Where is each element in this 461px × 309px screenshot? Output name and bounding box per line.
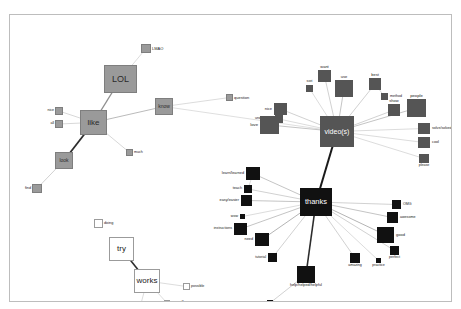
top-strip [0,0,461,14]
graph-node-label: people [410,94,423,98]
graph-node-label: please [419,164,430,168]
graph-node-label: sori [307,80,313,84]
graph-node-cool[interactable]: cool [418,137,430,148]
graph-node-works[interactable]: works [134,269,160,293]
graph-node-sori[interactable]: sori [306,85,313,92]
graph-node-use[interactable]: use [335,80,353,97]
graph-node-label: easy/easier [220,199,239,203]
graph-node-label: know [158,104,170,109]
graph-edge [164,98,230,107]
graph-node-nice_left[interactable]: nice [55,107,63,115]
graph-node-nice_right[interactable]: nice [274,103,287,115]
graph-node-much[interactable]: much [126,149,133,156]
graph-node-label: LMAO [152,47,163,51]
graph-node-label: practice [372,264,385,268]
graph-node-label: doing [104,222,113,226]
graph-node-label: perfect [389,256,400,260]
graph-node-lmao[interactable]: LMAO [141,44,151,53]
graph-node-label: possible [191,285,204,289]
graph-node-question[interactable]: question [226,94,233,101]
graph-node-label: OMG [403,203,412,207]
edge-layer [10,15,451,301]
graph-node-look[interactable]: look [55,152,73,169]
graph-node-omg[interactable]: OMG [392,200,401,209]
graph-node-all[interactable]: all [55,120,63,128]
graph-node-label: like [87,119,99,127]
graph-node-good[interactable]: good [377,227,394,243]
graph-node-method[interactable]: method [381,93,388,100]
graph-node-label: use [341,75,347,79]
graph-plot-area[interactable]: LMAOLOLlikeknowquestionniceallmuchlookfi… [10,15,451,301]
graph-node-label: yourself [171,301,184,302]
graph-node-label: tutorial [255,256,266,260]
graph-node-label: need [245,238,253,242]
graph-node-label: nice [47,109,54,113]
graph-node-label: instructions [214,227,232,231]
graph-node-label: LOL [112,75,129,84]
graph-node-label: help/helped/helpful [290,284,322,288]
graph-node-label: find [25,187,31,191]
graph-node-people[interactable]: people [407,99,426,117]
graph-node-know[interactable]: know [155,98,173,115]
graph-node-better[interactable]: better [136,301,145,302]
graph-node-tutorial[interactable]: tutorial [268,253,277,262]
graph-node-label: learn/learned [222,172,244,176]
graph-node-label: question [234,96,249,100]
graph-node-helphelped[interactable]: help/helped/helpful [297,266,315,283]
graph-node-label: solve/solved [432,127,452,131]
graph-node-label: cool [432,141,439,145]
graph-node-best[interactable]: best [369,78,381,90]
graph-node-label: thanks [305,198,327,206]
network-graph-screenshot: LMAOLOLlikeknowquestionniceallmuchlookfi… [0,0,461,309]
graph-node-teach[interactable]: teach [244,185,252,193]
graph-node-solve[interactable]: solve/solved [418,123,430,134]
graph-node-awesome[interactable]: awesome [387,212,398,223]
graph-node-amazing[interactable]: amazing [350,253,360,263]
graph-node-label: awesome [400,216,415,220]
graph-node-label: video(s) [325,128,350,135]
graph-node-label: best [371,73,379,77]
graph-node-easy[interactable]: easy/easier [241,195,252,206]
graph-node-label: try [117,245,126,253]
graph-node-label: works [137,277,158,285]
graph-node-learn[interactable]: learn/learned [246,167,260,180]
graph-node-show[interactable]: show [388,104,400,116]
graph-node-possible[interactable]: possible [183,283,190,290]
graph-node-need[interactable]: need [255,233,269,246]
graph-node-like[interactable]: like [80,110,107,135]
graph-node-label: good [396,233,405,237]
graph-node-label: look [59,158,68,163]
graph-node-love[interactable]: love [260,116,279,134]
graph-node-label: all [50,122,54,126]
graph-canvas-frame[interactable]: LMAOLOLlikeknowquestionniceallmuchlookfi… [9,14,452,302]
graph-node-label: amazing [348,264,362,268]
graph-node-label: wow [231,215,238,219]
graph-node-problem[interactable]: problem [267,300,273,302]
graph-node-practice[interactable]: practice [376,258,381,263]
graph-node-instructions[interactable]: instructions [234,223,247,235]
graph-node-label: method [390,95,402,99]
graph-node-want[interactable]: want [318,70,331,82]
graph-node-videos[interactable]: video(s) [320,116,354,147]
graph-node-try[interactable]: try [109,237,134,261]
graph-node-doing[interactable]: doing [94,219,103,228]
graph-node-lol[interactable]: LOL [104,65,137,93]
graph-node-label: want [320,65,328,69]
graph-node-label: much [134,151,143,155]
graph-node-please[interactable]: please [419,154,429,163]
graph-node-label: teach [233,187,242,191]
graph-node-yourself[interactable]: yourself [164,300,170,302]
graph-node-label: love [250,123,258,127]
graph-node-find[interactable]: find [32,184,42,193]
graph-node-label: show [389,99,398,103]
graph-node-wow[interactable]: wow [240,214,245,219]
graph-node-thanks[interactable]: thanks [300,188,332,216]
graph-node-perfect[interactable]: perfect [390,246,399,255]
graph-node-label: nice [265,107,272,111]
graph-edge [164,107,337,132]
